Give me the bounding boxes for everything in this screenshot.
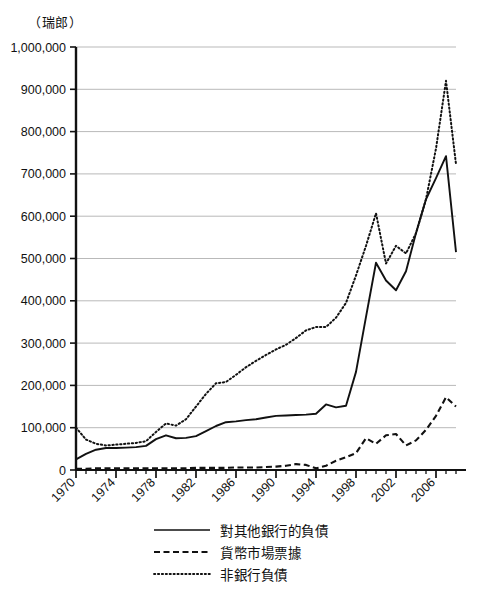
x-axis-tick-label: 2002 [369, 475, 399, 505]
legend-label-non-bank-liabilities: 非銀行負債 [220, 564, 288, 584]
y-axis-tick-label: 800,000 [21, 125, 66, 139]
chart-legend: 對其他銀行的負債 貨幣市場票據 非銀行負債 [152, 519, 382, 585]
legend-item-liabilities-to-other-banks: 對其他銀行的負債 [152, 519, 382, 541]
x-axis-tick-label: 1970 [49, 475, 79, 505]
chart-container: （瑞郎） 0100,000200,000300,000400,000500,00… [0, 0, 478, 592]
x-axis-tick-label: 2006 [409, 475, 439, 505]
x-axis-tick-label: 1990 [249, 475, 279, 505]
y-axis-tick-label: 300,000 [21, 337, 66, 351]
legend-key-solid-line [152, 524, 212, 536]
legend-key-dashed-line [152, 546, 212, 558]
line-chart-plot: 0100,000200,000300,000400,000500,000600,… [0, 0, 478, 512]
series-line-1 [76, 397, 456, 468]
series-line-0 [76, 156, 456, 459]
y-axis-tick-label: 900,000 [21, 83, 66, 97]
legend-item-non-bank-liabilities: 非銀行負債 [152, 563, 382, 585]
series-line-2 [76, 81, 456, 446]
x-axis-tick-label: 1978 [129, 475, 159, 505]
legend-label-liabilities-to-other-banks: 對其他銀行的負債 [220, 520, 328, 540]
legend-label-money-market-paper: 貨幣市場票據 [220, 542, 301, 562]
y-axis-tick-label: 0 [59, 464, 66, 478]
legend-key-dotted-line [152, 568, 212, 580]
y-axis-tick-label: 500,000 [21, 252, 66, 266]
legend-item-money-market-paper: 貨幣市場票據 [152, 541, 382, 563]
x-axis-tick-label: 1994 [289, 475, 319, 505]
y-axis-tick-label: 600,000 [21, 210, 66, 224]
x-axis-tick-label: 1974 [89, 475, 119, 505]
x-axis-tick-label: 1982 [169, 475, 199, 505]
y-axis-tick-label: 200,000 [21, 379, 66, 393]
y-axis-tick-label: 100,000 [21, 421, 66, 435]
y-axis-tick-label: 400,000 [21, 294, 66, 308]
y-axis-tick-label: 1,000,000 [10, 41, 66, 55]
y-axis-tick-label: 700,000 [21, 167, 66, 181]
x-axis-tick-label: 1986 [209, 475, 239, 505]
x-axis-tick-label: 1998 [329, 475, 359, 505]
